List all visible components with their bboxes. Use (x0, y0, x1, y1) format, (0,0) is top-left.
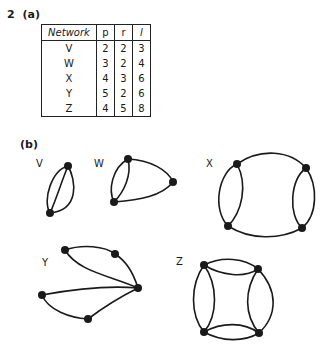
graph-w (111, 159, 173, 202)
graph-v (47, 166, 74, 213)
graph-y (42, 247, 138, 319)
graph-vertices (38, 155, 310, 337)
network-diagrams (0, 0, 327, 345)
graph-x (219, 153, 315, 237)
